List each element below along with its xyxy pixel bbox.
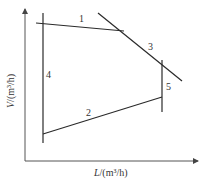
operating-diagram: 1 2 3 4 5 L/(m³/h) V/(m³/h) [0, 0, 210, 188]
line-2 [43, 97, 162, 134]
y-axis-unit: (m³/h) [5, 74, 17, 99]
line-3 [98, 13, 182, 81]
line-label-4: 4 [46, 69, 51, 80]
line-label-3: 3 [148, 41, 153, 52]
x-axis-unit: (m³/h) [102, 167, 127, 179]
line-label-1: 1 [79, 13, 84, 24]
diagram-lines [36, 13, 182, 143]
line-label-2: 2 [86, 107, 91, 118]
x-axis-label: L/(m³/h) [93, 167, 128, 179]
line-label-5: 5 [166, 81, 171, 92]
y-axis-label: V/(m³/h) [5, 74, 17, 108]
axes [25, 9, 198, 161]
line-1 [36, 23, 124, 31]
line-labels: 1 2 3 4 5 [46, 13, 171, 118]
